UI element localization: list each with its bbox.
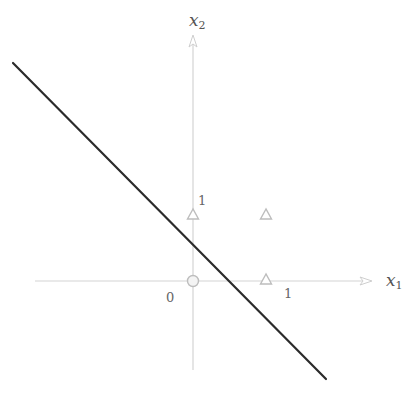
x-axis-label-subscript: 1 — [396, 279, 403, 292]
x-axis-label: x1 — [386, 272, 403, 291]
x-axis — [35, 277, 372, 285]
circle-marker-origin-icon — [188, 276, 199, 287]
y-axis-label-subscript: 2 — [199, 19, 206, 32]
decision-boundary-line — [13, 63, 326, 379]
y-axis — [189, 35, 197, 370]
triangle-marker-1-0-icon — [261, 274, 272, 284]
x-axis-label-name: x — [386, 270, 396, 290]
triangle-marker-1-1-icon — [261, 209, 272, 219]
x-tick-label-one: 1 — [284, 287, 292, 300]
data-points — [188, 209, 272, 287]
triangle-marker-0-1-icon — [188, 209, 199, 219]
diagram-canvas: x2 x1 0 1 1 — [0, 0, 418, 393]
origin-tick-label: 0 — [166, 291, 174, 304]
y-tick-label-one: 1 — [198, 194, 206, 207]
y-axis-label-name: x — [189, 10, 199, 30]
y-axis-label: x2 — [189, 12, 206, 31]
diagram-svg — [0, 0, 418, 393]
